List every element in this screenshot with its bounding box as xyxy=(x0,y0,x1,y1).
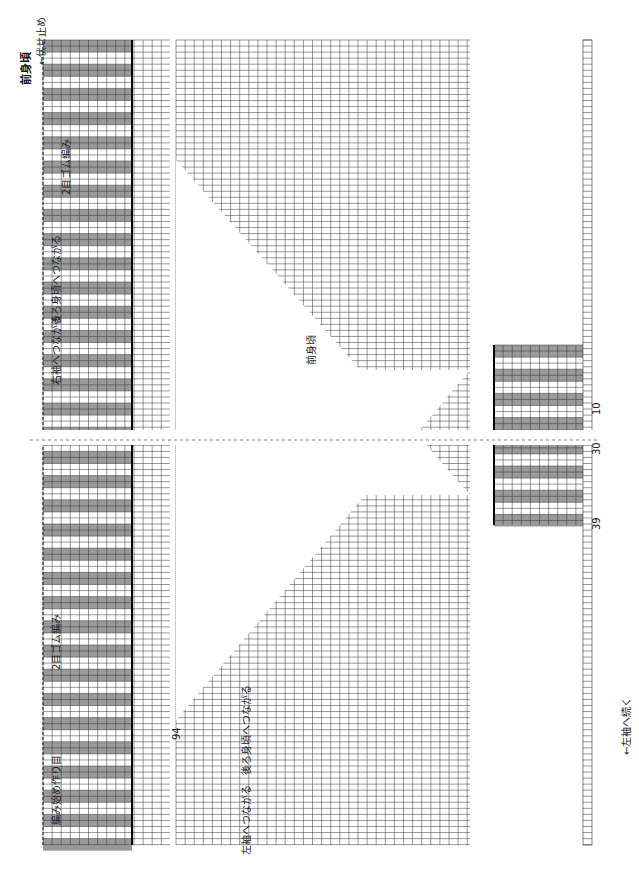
knitting-chart: 前身頃 ←伏せ止め 2目ゴム編み 後ろ身頃へつながる 右袖へつながる 2目ゴム編… xyxy=(0,0,639,885)
col-94: 94 xyxy=(171,727,182,740)
center-label: 前身頃 xyxy=(305,335,317,365)
connect-back-bottom-label: 後ろ身頃へつながる xyxy=(240,685,252,775)
stitch-grid xyxy=(30,40,600,851)
col-39: 39 xyxy=(591,517,602,530)
knitting-chart-stage: 前身頃 ←伏せ止め 2目ゴム編み 後ろ身頃へつながる 右袖へつながる 2目ゴム編… xyxy=(0,0,639,885)
ribbing-label-bottom: 2目ゴム編み xyxy=(50,614,62,670)
right-sleeve-label: 右袖へつながる xyxy=(50,315,62,385)
col-10: 10 xyxy=(591,402,602,415)
ribbing-label-top: 2目ゴム編み xyxy=(60,139,72,195)
connect-back-label: 後ろ身頃へつながる xyxy=(50,235,62,325)
chart-title: 前身頃 xyxy=(19,51,33,85)
start-label: 編み始め xyxy=(50,785,62,825)
cast-on-label: 作り目 xyxy=(51,755,62,785)
bind-off-label: ←伏せ止め xyxy=(35,17,47,65)
left-sleeve-connect-label: 左袖へつながる xyxy=(240,785,252,855)
col-30: 30 xyxy=(591,442,602,455)
left-sleeve-continue-label: ←左袖へ続く xyxy=(620,697,632,755)
